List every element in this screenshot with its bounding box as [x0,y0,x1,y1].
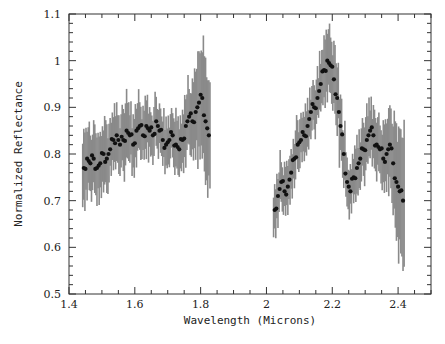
data-point [274,207,278,211]
data-point [278,187,282,191]
y-tick-label: 0.8 [44,148,62,161]
data-point [200,96,204,100]
y-tick-labels: 0.50.60.70.80.911.1 [44,8,62,301]
y-tick-label: 1 [54,55,61,68]
x-tick-label: 2.2 [324,298,342,311]
data-point [207,133,211,137]
data-point [105,157,109,161]
x-tick-label: 2.4 [389,298,407,311]
data-point [394,180,398,184]
data-point [83,167,87,171]
data-point [161,138,165,142]
data-point [197,101,201,105]
data-point [139,123,143,127]
data-point [370,125,374,129]
data-point [371,133,375,137]
data-point [133,141,137,145]
data-point [399,188,403,192]
data-point [357,161,361,165]
data-point [358,157,362,161]
data-point [98,161,102,165]
data-point [203,119,207,123]
data-point [345,180,349,184]
data-point [340,132,344,136]
data-point [307,117,311,121]
data-point [380,146,384,150]
data-point [106,152,110,156]
data-point [189,111,193,115]
data-point [343,172,347,176]
data-point [289,171,293,175]
data-point [143,134,147,138]
x-tick-label: 1.8 [192,298,210,311]
data-point [389,146,393,150]
data-point [113,141,117,145]
data-point [314,106,318,110]
data-point [317,89,321,93]
data-point [149,125,153,129]
data-point [154,119,158,123]
data-point [129,132,133,136]
data-point [393,176,397,180]
data-point [365,138,369,142]
data-point [309,110,313,114]
y-tick-label: 0.7 [44,195,62,208]
y-tick-label: 0.9 [44,101,62,114]
data-point [384,152,388,156]
data-point [324,69,328,73]
data-point [101,152,105,156]
data-point [287,178,291,182]
data-point [171,133,175,137]
data-point [159,128,163,132]
y-tick-label: 1.1 [44,8,62,21]
reflectance-chart: 1.41.61.822.22.4 0.50.60.70.80.911.1 Wav… [0,0,445,344]
data-point [305,124,309,128]
data-point [192,120,196,124]
data-point [353,176,357,180]
data-point [185,119,189,123]
data-point [383,160,387,164]
data-point [182,137,186,141]
data-point [88,161,92,165]
data-point [401,199,405,203]
data-point [332,77,336,81]
data-point [286,185,290,189]
x-tick-label: 1.4 [60,298,78,311]
y-axis-label: Normalized Reflectance [12,81,25,227]
data-point [281,179,285,183]
x-tick-label: 1.6 [126,298,144,311]
data-point [299,138,303,142]
data-point [338,124,342,128]
error-bars [83,24,404,271]
data-point [108,147,112,151]
x-tick-labels: 1.41.61.822.22.4 [60,298,407,311]
x-tick-label: 2 [263,298,270,311]
data-point [333,92,337,96]
data-point [284,193,288,197]
data-point [294,155,298,159]
data-point [347,185,351,189]
data-point [116,138,120,142]
data-point [337,110,341,114]
data-point [152,132,156,136]
data-point [202,113,206,117]
data-point [92,157,96,161]
data-point [167,138,171,142]
data-point [205,126,209,130]
data-point [363,148,367,152]
x-axis-label: Wavelength (Microns) [184,314,316,327]
data-point [304,134,308,138]
data-point [330,65,334,69]
data-point [118,143,122,147]
data-point [366,133,370,137]
data-point [315,96,319,100]
data-point [194,110,198,114]
data-point [156,124,160,128]
data-point [342,152,346,156]
data-point [177,147,181,151]
data-point [391,161,395,165]
data-point [195,105,199,109]
data-point [388,143,392,147]
data-point [348,189,352,193]
data-point [335,96,339,100]
